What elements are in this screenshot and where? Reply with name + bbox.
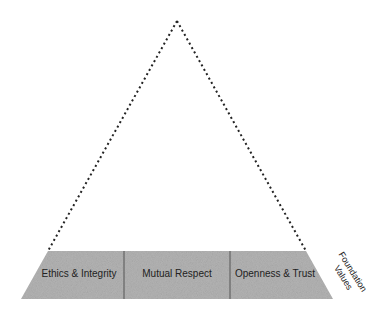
pyramid-right-edge xyxy=(177,21,306,251)
segment-label-openness-trust: Openness & Trust xyxy=(230,268,320,279)
pyramid-left-edge xyxy=(48,21,177,251)
segment-label-ethics-integrity: Ethics & Integrity xyxy=(34,268,124,279)
pyramid-diagram xyxy=(0,0,379,314)
segment-label-mutual-respect: Mutual Respect xyxy=(124,268,230,279)
